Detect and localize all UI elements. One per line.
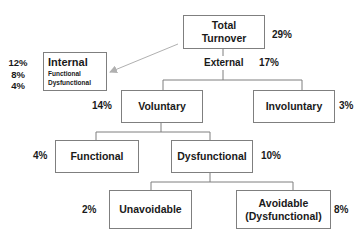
node-avoidable-line1: Avoidable — [259, 197, 309, 210]
node-internal-functional: Functional — [48, 69, 102, 78]
node-voluntary-label: Voluntary — [138, 100, 186, 113]
node-dysfunctional: Dysfunctional — [171, 140, 253, 173]
node-internal-title: Internal — [48, 56, 102, 69]
node-dysfunctional-label: Dysfunctional — [177, 150, 246, 163]
node-unavoidable-label: Unavoidable — [119, 203, 181, 216]
node-functional: Functional — [55, 140, 139, 173]
node-total-turnover: Total Turnover — [183, 15, 265, 49]
pct-internal-total: 12% — [5, 57, 31, 69]
pct-dysfunctional: 10% — [261, 150, 281, 162]
pct-functional: 4% — [33, 150, 47, 162]
pct-total: 29% — [272, 29, 292, 41]
node-involuntary: Involuntary — [253, 90, 335, 123]
pct-avoidable: 8% — [334, 204, 348, 216]
node-voluntary: Voluntary — [121, 90, 203, 123]
node-total-line1: Total — [212, 19, 236, 32]
pct-involuntary: 3% — [339, 100, 353, 112]
node-external: External — [204, 57, 243, 69]
node-avoidable-line2: (Dysfunctional) — [245, 210, 321, 223]
node-internal: Internal Functional Dysfunctional — [43, 52, 107, 91]
node-functional-label: Functional — [70, 150, 123, 163]
pct-internal-dysfunctional: 4% — [5, 80, 31, 92]
node-unavoidable: Unavoidable — [109, 190, 192, 229]
node-internal-dysfunctional: Dysfunctional — [48, 78, 102, 87]
node-involuntary-label: Involuntary — [266, 100, 323, 113]
pct-internal-functional: 8% — [5, 69, 31, 81]
pct-external: 17% — [259, 57, 279, 69]
node-total-line2: Turnover — [202, 32, 247, 45]
pct-internal-column: 12% 8% 4% — [5, 57, 31, 92]
node-avoidable: Avoidable (Dysfunctional) — [236, 190, 331, 229]
pct-unavoidable: 2% — [82, 204, 96, 216]
pct-voluntary: 14% — [92, 100, 112, 112]
